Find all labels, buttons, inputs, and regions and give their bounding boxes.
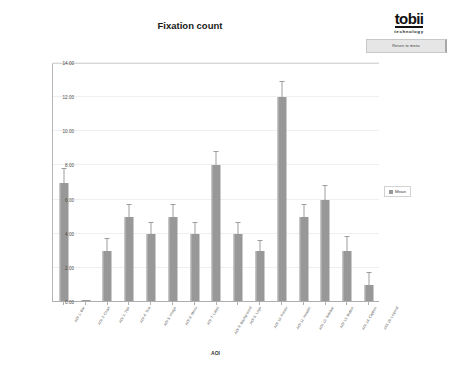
bar-slot [206,64,228,302]
error-bar-cap [170,204,175,205]
error-bar [151,223,152,233]
error-bar [347,237,348,251]
bar-slot [271,64,293,302]
error-bar [107,239,108,251]
bar[interactable] [168,217,177,302]
legend-label-mean: Mean [395,189,406,194]
error-bar-cap [301,204,306,205]
x-tick-mark [194,302,195,305]
error-bar [260,241,261,251]
error-bar [325,186,326,200]
bar-slot [97,64,119,302]
x-axis-label: AOI [52,350,379,356]
y-tick-label: 2.00 [34,265,74,270]
legend[interactable]: Mean [384,186,411,197]
x-tick-mark [368,302,369,305]
error-bar-cap [323,185,328,186]
error-bar [281,82,282,97]
gridline [53,62,379,63]
x-tick-mark [128,302,129,305]
bar-slot [140,64,162,302]
y-tick-label: 10.00 [34,129,74,134]
error-bar [129,205,130,217]
x-tick-label: AOI 1: Bar [74,306,86,323]
bar-slot [118,64,140,302]
x-tick-mark [259,302,260,305]
x-tick-mark [237,302,238,305]
x-tick-mark [303,302,304,305]
error-bar [238,223,239,233]
x-tick-mark [216,302,217,305]
x-tick-mark [325,302,326,305]
error-bar-cap [367,272,372,273]
x-tick-label: AOI 10: Footer [273,306,289,329]
x-tick-label: AOI 7: Label [206,306,220,326]
bar-slot [184,64,206,302]
brand-block: tobii technology Return to menu [366,10,452,53]
bar[interactable] [321,200,330,302]
error-bar [216,152,217,166]
bar-slot [336,64,358,302]
y-tick-label: 14.00 [34,61,74,66]
bar[interactable] [212,165,221,302]
bar[interactable] [299,217,308,302]
y-tick-label: 0.00 [34,300,74,305]
error-bar-cap [127,204,132,205]
y-tick-label: 4.00 [34,231,74,236]
tobii-logo: tobii [395,12,424,28]
bar-slot [358,64,380,302]
x-tick-mark [346,302,347,305]
bar[interactable] [256,251,265,302]
bar-slot [227,64,249,302]
error-bar-cap [149,222,154,223]
error-bar [63,169,64,183]
error-bar-cap [192,222,197,223]
x-tick-label: AOI 4: Text [139,306,152,324]
x-tick-mark [85,302,86,305]
error-bar-cap [61,168,66,169]
y-tick-label: 12.00 [34,95,74,100]
error-bar-cap [279,81,284,82]
bar-slot [75,64,97,302]
bar-slot [162,64,184,302]
error-bar-cap [214,151,219,152]
error-bar [194,223,195,233]
error-bar [369,273,370,285]
bar[interactable] [125,217,134,302]
x-tick-mark [281,302,282,305]
x-tick-label: AOI 6: Menu [184,306,198,326]
x-tick-label: AOI 3: Title [118,306,131,324]
x-tick-label: AOI 12: Sidebar [318,306,335,331]
bar[interactable] [365,285,374,302]
plot-area [52,63,379,302]
bar[interactable] [190,234,199,302]
x-tick-mark [107,302,108,305]
error-bar [172,205,173,217]
x-tick-label: AOI 5: Image [163,306,177,327]
error-bar-cap [236,222,241,223]
error-bar-cap [258,240,263,241]
bar[interactable] [234,234,243,302]
x-tick-label: AOI 14: Caption [361,306,378,331]
x-tick-label: AOI 11: Header [296,306,312,330]
bar[interactable] [103,251,112,302]
y-tick-label: 6.00 [34,197,74,202]
bar[interactable] [343,251,352,302]
x-tick-label: AOI 13: Button [339,306,355,329]
x-tick-label: AOI 2: Chart [97,306,111,326]
x-tick-mark [63,302,64,305]
bar[interactable] [147,234,156,302]
x-tick-mark [150,302,151,305]
x-tick-label: AOI 15: Legend [383,306,399,330]
error-bar-cap [105,238,110,239]
legend-swatch-mean [389,190,393,194]
error-bar [303,205,304,217]
bar-slot [249,64,271,302]
bar[interactable] [277,97,286,302]
y-tick-label: 8.00 [34,163,74,168]
return-to-menu-button[interactable]: Return to menu [366,39,447,53]
error-bar-cap [345,236,350,237]
x-tick-mark [172,302,173,305]
bar-slot [293,64,315,302]
chart-title: Fixation count [0,20,380,31]
